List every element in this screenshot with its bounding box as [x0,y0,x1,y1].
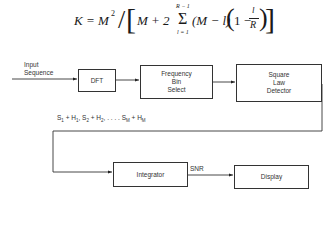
signal-sum-label: S1 + H1, S2 + H2, . . . . SM + HM [57,114,146,125]
dft-block: DFT [78,69,116,92]
input-sequence-label: Input Sequence [24,61,53,77]
square-law-detector-block: Square Law Detector [236,64,322,102]
display-block: Display [234,165,309,189]
frequency-bin-select-block: Frequency Bin Select [140,65,213,99]
integrator-block: Integrator [113,162,188,187]
snr-label: SNR [190,165,204,173]
